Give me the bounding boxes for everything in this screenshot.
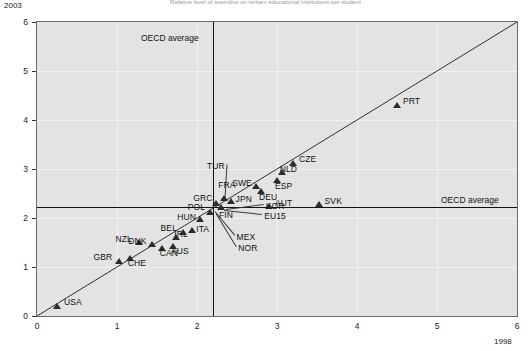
x-tick-label: 5 <box>429 321 445 331</box>
x-tick-label: 2 <box>189 321 205 331</box>
y-axis-title: 2003 <box>4 1 22 10</box>
x-tick-label: 6 <box>509 321 525 331</box>
plot-area: OECD averageOECD average USAGBRCHENZLDNK… <box>36 21 518 317</box>
y-tick-label: 3 <box>12 164 28 174</box>
data-point-label: MEX <box>237 232 256 242</box>
data-point-label: GRC <box>193 193 212 203</box>
data-point-label: FIN <box>219 210 233 220</box>
data-point-label: CHE <box>128 258 146 268</box>
chart-title: Relative level of spending on tertiary e… <box>0 0 531 4</box>
data-point-marker[interactable] <box>188 227 196 233</box>
data-point-label: USA <box>64 297 82 307</box>
data-point-marker[interactable] <box>227 198 235 204</box>
data-point-label: ESP <box>275 181 292 191</box>
oecd-average-label: OECD average <box>441 195 499 205</box>
oecd-average-label: OECD average <box>141 33 199 43</box>
y-tick-label: 6 <box>12 17 28 27</box>
data-point-label: BEL <box>161 223 177 233</box>
data-point-label: AUS <box>171 246 189 256</box>
data-point-marker[interactable] <box>196 216 204 222</box>
x-tick-label: 1 <box>109 321 125 331</box>
y-tick-label: 2 <box>12 213 28 223</box>
data-point-label: NOR <box>238 243 257 253</box>
data-point-marker[interactable] <box>315 201 323 207</box>
data-point-label: GBR <box>94 252 113 262</box>
data-point-marker[interactable] <box>289 160 297 166</box>
x-axis-title: 1998 <box>494 337 512 346</box>
data-point-marker[interactable] <box>179 229 187 235</box>
y-tick-label: 1 <box>12 262 28 272</box>
data-point-marker[interactable] <box>148 241 156 247</box>
data-point-label: HUN <box>177 212 196 222</box>
x-tick-label: 4 <box>349 321 365 331</box>
data-point-label: POL <box>188 202 205 212</box>
y-tick-label: 5 <box>12 66 28 76</box>
y-tick-label: 4 <box>12 115 28 125</box>
data-point-marker[interactable] <box>393 102 401 108</box>
data-point-label: KOR <box>266 201 285 211</box>
data-point-label: JPN <box>236 194 252 204</box>
scatter-chart: Relative level of spending on tertiary e… <box>0 0 531 351</box>
x-tick-label: 3 <box>269 321 285 331</box>
data-point-label: TUR <box>207 161 225 171</box>
data-point-label: PRT <box>403 96 420 106</box>
data-point-marker[interactable] <box>115 258 123 264</box>
data-point-label: SVK <box>325 196 342 206</box>
x-tick-label: 0 <box>29 321 45 331</box>
data-point-label: CZE <box>299 154 316 164</box>
data-point-label: ITA <box>196 224 209 234</box>
data-point-label: EU15 <box>264 211 286 221</box>
data-point-marker[interactable] <box>53 303 61 309</box>
y-tick-label: 0 <box>12 311 28 321</box>
data-point-label: SWE <box>232 178 252 188</box>
data-point-marker[interactable] <box>206 209 214 215</box>
data-point-label: DNK <box>128 236 146 246</box>
